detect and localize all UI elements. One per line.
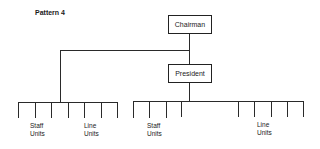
left-staff-units-label: Staff Units bbox=[30, 122, 45, 138]
left-unit-tick bbox=[101, 102, 102, 118]
right-group-bar bbox=[133, 101, 304, 102]
left-unit-tick bbox=[68, 102, 69, 118]
right-unit-tick bbox=[287, 101, 288, 117]
left-unit-tick bbox=[84, 102, 85, 118]
right-unit-tick bbox=[238, 101, 239, 117]
left-unit-tick bbox=[51, 102, 52, 118]
chairman-box: Chairman bbox=[168, 15, 212, 34]
president-box: President bbox=[168, 64, 212, 83]
right-unit-tick bbox=[133, 101, 134, 118]
chairman-left-branch-vertical bbox=[60, 50, 61, 102]
president-label: President bbox=[175, 70, 205, 77]
left-line-units-label: Line Units bbox=[84, 122, 99, 138]
left-unit-tick bbox=[117, 102, 118, 118]
president-down-connector bbox=[189, 83, 190, 101]
left-unit-tick bbox=[35, 102, 36, 118]
right-unit-tick bbox=[254, 101, 255, 117]
diagram-title: Pattern 4 bbox=[35, 9, 65, 16]
left-unit-tick bbox=[18, 102, 19, 118]
right-unit-tick bbox=[303, 101, 304, 117]
right-line-units-label: Line Units bbox=[257, 121, 272, 137]
right-staff-units-label: Staff Units bbox=[147, 122, 162, 138]
chairman-label: Chairman bbox=[175, 21, 205, 28]
right-unit-tick bbox=[149, 101, 150, 118]
right-unit-tick bbox=[181, 101, 182, 117]
chairman-president-connector bbox=[189, 34, 190, 64]
right-unit-tick bbox=[166, 101, 167, 118]
right-unit-tick bbox=[271, 101, 272, 117]
chairman-left-branch-horizontal bbox=[60, 50, 190, 51]
